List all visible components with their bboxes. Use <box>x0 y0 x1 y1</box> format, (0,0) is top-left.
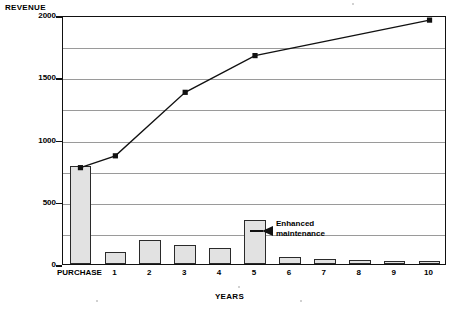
y-tick-label-500: 500 <box>18 198 56 207</box>
annotation-line-2: maintenance <box>276 229 325 239</box>
y-tick-label-0: 0 <box>18 260 56 269</box>
gridline-750 <box>63 173 445 174</box>
bar-2 <box>139 240 161 264</box>
y-tick-label-2000: 2000 <box>18 11 56 20</box>
x-axis-title: YEARS <box>0 292 459 301</box>
revenue-chart: REVENUE 0500100015002000 PURCHASE1234567… <box>0 0 459 312</box>
scan-artifact-0 <box>352 3 354 5</box>
x-tick-label-10: 10 <box>401 268 456 277</box>
annotation-enhanced-maintenance: Enhanced maintenance <box>276 219 325 239</box>
scan-artifact-1 <box>238 286 240 288</box>
bar-purchase <box>70 166 92 264</box>
bar-9 <box>384 261 406 264</box>
data-point-marker-5 <box>252 53 257 58</box>
plot-area <box>62 16 446 265</box>
annotation-arrow-icon <box>262 226 273 236</box>
y-tick-label-1000: 1000 <box>18 136 56 145</box>
cumulative-revenue-line <box>80 20 429 168</box>
bar-6 <box>279 257 301 264</box>
bar-7 <box>314 259 336 264</box>
bar-4 <box>209 248 231 264</box>
annotation-line-1: Enhanced <box>276 219 325 229</box>
data-point-marker-1 <box>113 153 118 158</box>
y-tick-mark-0 <box>56 265 62 267</box>
gridline-500 <box>63 204 445 205</box>
bar-10 <box>419 261 441 264</box>
y-tick-label-1500: 1500 <box>18 73 56 82</box>
gridline-1250 <box>63 110 445 111</box>
bar-3 <box>174 245 196 264</box>
bar-8 <box>349 260 371 264</box>
scan-artifact-3 <box>300 300 302 302</box>
data-point-marker-3 <box>183 90 188 95</box>
bar-1 <box>105 252 127 264</box>
gridline-1000 <box>63 142 445 143</box>
gridline-1750 <box>63 48 445 49</box>
scan-artifact-2 <box>96 300 98 302</box>
data-point-marker-10 <box>427 18 432 23</box>
gridline-1500 <box>63 79 445 80</box>
